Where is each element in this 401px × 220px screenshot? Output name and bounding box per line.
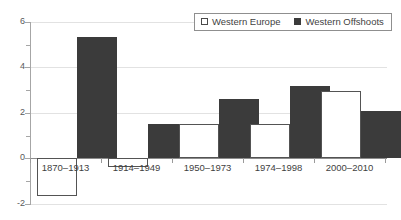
x-label-1870-1913: 1870–1913 <box>30 163 101 173</box>
x-label-2000-2010: 2000–2010 <box>314 163 385 173</box>
x-tick-5 <box>385 158 386 163</box>
y-tick-minor-neg1 <box>26 181 30 182</box>
y-label-2: 2 <box>3 108 25 117</box>
bar-western-europe-2000-2010[interactable] <box>321 91 361 158</box>
legend-entry-western-europe[interactable]: Western Europe <box>201 17 280 27</box>
y-label-neg2: -2 <box>3 199 25 208</box>
y-tick-6 <box>25 22 30 23</box>
plot-area <box>30 22 387 204</box>
chart-legend: Western Europe Western Offshoots <box>194 13 392 31</box>
legend-entry-western-offshoots[interactable]: Western Offshoots <box>294 17 383 27</box>
y-tick-minor-3 <box>26 90 30 91</box>
bar-western-offshoots-1870-1913[interactable] <box>77 37 117 158</box>
y-tick-4 <box>25 67 30 68</box>
legend-label-western-offshoots: Western Offshoots <box>305 17 383 27</box>
y-tick-minor-1 <box>26 136 30 137</box>
x-label-1950-1973: 1950–1973 <box>172 163 243 173</box>
y-tick-neg2 <box>25 204 30 205</box>
y-label-4: 4 <box>3 62 25 71</box>
y-label-6: 6 <box>3 17 25 26</box>
gridline-neg2 <box>30 204 387 205</box>
x-label-1914-1949: 1914–1949 <box>101 163 172 173</box>
bar-western-europe-1950-1973[interactable] <box>179 124 219 158</box>
y-label-0: 0 <box>3 153 25 162</box>
y-axis <box>30 22 31 205</box>
legend-swatch-filled-square-icon <box>294 18 301 25</box>
gridline-zero <box>30 158 387 159</box>
legend-label-western-europe: Western Europe <box>212 17 280 27</box>
bar-western-europe-1974-1998[interactable] <box>250 124 290 158</box>
y-tick-2 <box>25 113 30 114</box>
legend-swatch-hollow-square-icon <box>201 18 208 25</box>
y-tick-minor-5 <box>26 45 30 46</box>
x-label-1974-1998: 1974–1998 <box>243 163 314 173</box>
bar-western-offshoots-2000-2010[interactable] <box>361 111 401 158</box>
